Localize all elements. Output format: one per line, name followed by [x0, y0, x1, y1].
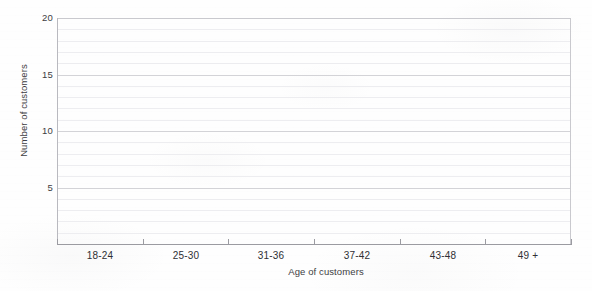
gridline-1 — [57, 233, 571, 234]
gridline-14 — [57, 86, 571, 87]
x-tick-label-43-48: 43-48 — [430, 250, 457, 261]
gridline-12 — [57, 108, 571, 109]
x-tick-label-25-30: 25-30 — [173, 250, 200, 261]
x-tick-mark-2 — [228, 239, 229, 245]
y-tick-label-5: 5 — [7, 183, 53, 193]
gridline-20 — [57, 18, 571, 19]
gridline-4 — [57, 199, 571, 200]
plot-area — [57, 18, 571, 244]
plot-right-border — [570, 18, 571, 244]
gridline-17 — [57, 52, 571, 53]
x-tick-mark-1 — [143, 239, 144, 245]
y-axis-line — [57, 18, 58, 245]
y-axis-title: Number of customers — [18, 36, 29, 186]
gridline-5 — [57, 188, 571, 189]
gridline-10 — [57, 131, 571, 132]
x-tick-label-18-24: 18-24 — [87, 250, 114, 261]
y-tick-label-20: 20 — [7, 13, 53, 23]
x-tick-mark-5 — [485, 239, 486, 245]
gridline-7 — [57, 165, 571, 166]
x-tick-mark-4 — [400, 239, 401, 245]
gridline-16 — [57, 63, 571, 64]
x-tick-mark-0 — [57, 239, 58, 245]
x-tick-mark-3 — [314, 239, 315, 245]
gridline-11 — [57, 120, 571, 121]
gridline-6 — [57, 176, 571, 177]
gridline-15 — [57, 75, 571, 76]
y-tick-label-10: 10 — [7, 126, 53, 136]
gridline-9 — [57, 142, 571, 143]
chart-screenshot: 2015105 Number of customers 18-2425-3031… — [0, 0, 592, 291]
gridline-18 — [57, 41, 571, 42]
gridline-19 — [57, 29, 571, 30]
x-tick-label-31-36: 31-36 — [258, 250, 285, 261]
gridline-8 — [57, 154, 571, 155]
y-tick-label-15: 15 — [7, 70, 53, 80]
x-tick-label-49-: 49 + — [518, 250, 539, 261]
gridline-3 — [57, 210, 571, 211]
gridline-13 — [57, 97, 571, 98]
x-tick-mark-6 — [571, 239, 572, 245]
x-tick-label-37-42: 37-42 — [344, 250, 371, 261]
gridline-2 — [57, 221, 571, 222]
x-axis-title: Age of customers — [0, 266, 592, 277]
